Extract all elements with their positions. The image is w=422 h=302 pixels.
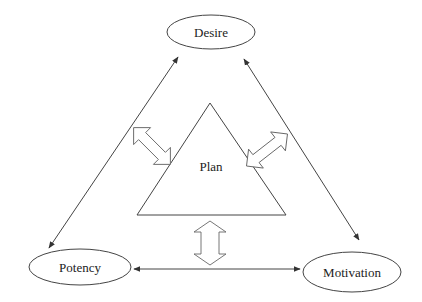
hollow-double-arrow-bottom <box>194 221 226 265</box>
hollow-double-arrow-left <box>125 119 179 173</box>
plan-label: Plan <box>199 159 223 174</box>
potency-label: Potency <box>59 260 101 275</box>
motivation-label: Motivation <box>323 265 381 280</box>
diagram-canvas: Desire Potency Motivation Plan <box>0 0 422 302</box>
desire-label: Desire <box>194 25 228 40</box>
